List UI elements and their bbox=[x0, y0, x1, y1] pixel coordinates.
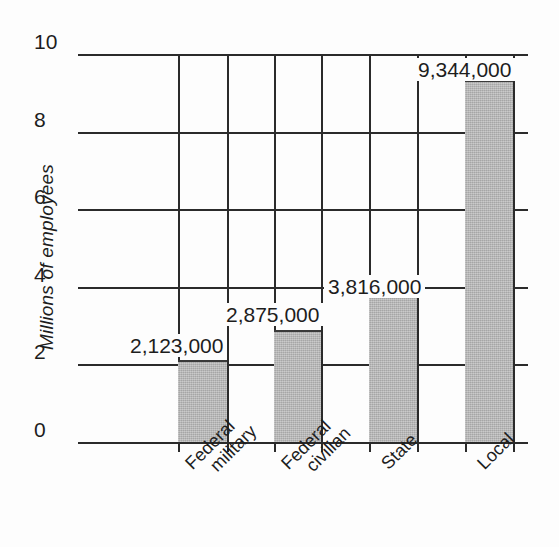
value-label-federal-military: 2,123,000 bbox=[126, 334, 227, 357]
value-label-federal-civilian: 2,875,000 bbox=[222, 303, 323, 326]
y-tick-label-0: 0 bbox=[34, 419, 78, 440]
bar-local bbox=[465, 80, 513, 443]
y-tick-label-10: 10 bbox=[34, 31, 78, 52]
gridline-10: 10 bbox=[78, 54, 528, 56]
plot-area: 10 8 6 4 2 0 bbox=[78, 40, 528, 442]
y-tick-label-8: 8 bbox=[34, 109, 78, 130]
value-label-state: 3,816,000 bbox=[324, 275, 425, 298]
gridline-8: 8 bbox=[78, 132, 528, 134]
y-tick-label-2: 2 bbox=[34, 341, 78, 362]
vertical-gridline-6 bbox=[417, 54, 419, 452]
vertical-gridline-4 bbox=[321, 54, 323, 452]
vertical-gridline-8 bbox=[513, 54, 515, 452]
bar-chart: Millions of employees 10 8 6 4 2 0 bbox=[0, 0, 559, 547]
gridline-4: 4 bbox=[78, 287, 528, 289]
bar-top-edge-1 bbox=[178, 360, 227, 362]
y-tick-label-4: 4 bbox=[34, 264, 78, 285]
bar-state bbox=[369, 294, 417, 442]
bar-top-edge-2 bbox=[274, 330, 321, 332]
gridline-6: 6 bbox=[78, 209, 528, 211]
vertical-gridline-2 bbox=[227, 54, 229, 452]
y-tick-label-6: 6 bbox=[34, 186, 78, 207]
value-label-local: 9,344,000 bbox=[414, 58, 515, 81]
